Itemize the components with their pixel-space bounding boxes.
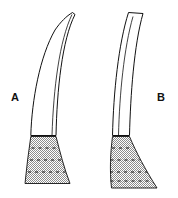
figure-container: A B [0,0,178,198]
figure-drawing [0,0,178,198]
specimen-label-a: A [11,92,19,103]
specimen-label-b: B [157,92,165,103]
